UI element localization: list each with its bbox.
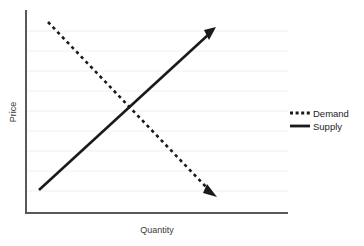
supply-demand-chart: Quantity Price Demand Supply xyxy=(0,0,364,246)
y-axis-label: Price xyxy=(8,102,18,123)
chart-canvas: Quantity Price Demand Supply xyxy=(0,0,364,246)
legend-label-supply: Supply xyxy=(313,121,342,132)
chart-background xyxy=(0,0,364,246)
legend-label-demand: Demand xyxy=(313,108,349,119)
x-axis-label: Quantity xyxy=(140,225,174,235)
